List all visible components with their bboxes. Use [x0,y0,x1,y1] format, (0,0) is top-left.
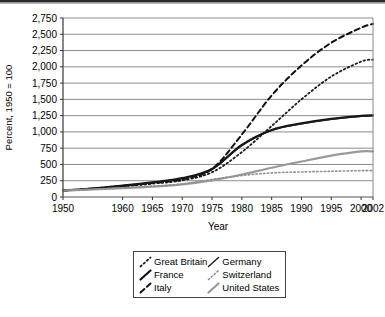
svg-text:250: 250 [40,175,57,186]
legend-table: Great Britain Germany France Switzerland… [139,255,279,294]
svg-text:2,000: 2,000 [32,61,57,72]
svg-text:2,500: 2,500 [32,29,57,40]
svg-text:1950: 1950 [52,203,75,214]
svg-text:1990: 1990 [290,203,313,214]
legend-label-germany: Germany [222,255,279,268]
svg-text:2,250: 2,250 [32,45,57,56]
legend-label-great-britain: Great Britain [154,255,207,268]
legend-label-switzerland: Switzerland [222,268,279,281]
chart-legend: Great Britain Germany France Switzerland… [133,251,286,298]
svg-text:1985: 1985 [261,203,284,214]
svg-text:1975: 1975 [201,203,224,214]
svg-text:1980: 1980 [231,203,254,214]
legend-swatch-united-states [207,281,222,294]
svg-text:1,750: 1,750 [32,78,57,89]
svg-text:1,500: 1,500 [32,94,57,105]
legend-swatch-great-britain [139,255,154,268]
svg-text:0: 0 [51,192,57,203]
svg-text:2,750: 2,750 [32,13,57,24]
svg-text:1970: 1970 [171,203,194,214]
legend-swatch-germany [207,255,222,268]
x-tick-labels: 1950196019651970197519801985199019952000… [52,203,385,214]
legend-label-italy: Italy [154,281,207,294]
svg-text:1995: 1995 [320,203,343,214]
legend-row: Italy United States [139,281,279,294]
legend-label-france: France [154,268,207,281]
legend-swatch-france [139,268,154,281]
line-chart-canvas: 02505007501,0001,2501,5001,7502,0002,250… [0,4,385,254]
y-tick-labels: 02505007501,0001,2501,5001,7502,0002,250… [32,13,57,203]
data-series-group [63,24,373,191]
svg-text:750: 750 [40,143,57,154]
svg-text:1,250: 1,250 [32,110,57,121]
legend-swatch-italy [139,281,154,294]
legend-row: Great Britain Germany [139,255,279,268]
svg-text:1965: 1965 [141,203,164,214]
legend-row: France Switzerland [139,268,279,281]
y-axis-title: Percent, 1950 = 100 [3,65,14,151]
svg-text:1960: 1960 [111,203,134,214]
legend-label-united-states: United States [222,281,279,294]
svg-text:1,000: 1,000 [32,126,57,137]
svg-text:2002: 2002 [362,203,385,214]
x-axis-title: Year [208,221,229,232]
legend-swatch-switzerland [207,268,222,281]
svg-text:500: 500 [40,159,57,170]
